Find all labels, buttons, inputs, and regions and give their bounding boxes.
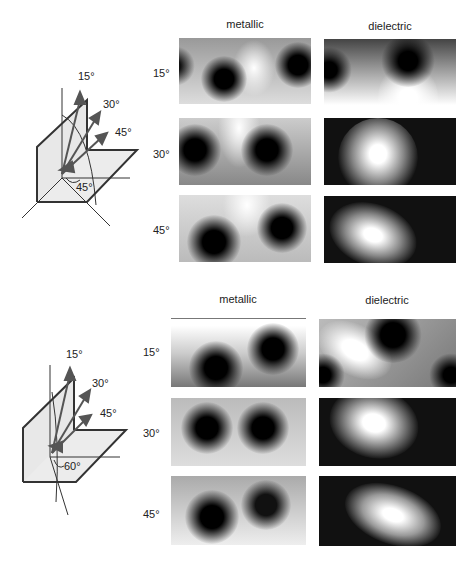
- geometry-diagram-bottom: 15° 30° 45° 60°: [0, 320, 150, 530]
- column-header-dielectric: dielectric: [324, 20, 456, 32]
- arrow-label-45: 45°: [115, 126, 132, 138]
- row-label-30: 30°: [143, 427, 160, 439]
- arrow-label-45: 45°: [100, 407, 117, 419]
- field-map-top-metallic-15: [179, 38, 311, 104]
- row-label-30: 30°: [153, 148, 170, 160]
- field-map-top-metallic-45: [179, 195, 311, 262]
- field-map-bottom-metallic-45: [171, 476, 306, 545]
- column-header-metallic: metallic: [179, 18, 311, 30]
- column-header-metallic: metallic: [172, 293, 304, 305]
- field-map-top-dielectric-15: [324, 39, 456, 105]
- column-header-dielectric: dielectric: [321, 294, 453, 306]
- row-label-15: 15°: [153, 67, 170, 79]
- row-label-15: 15°: [143, 346, 160, 358]
- field-map-top-dielectric-45: [324, 196, 456, 263]
- field-map-top-dielectric-30: [324, 118, 456, 185]
- base-angle-label: 60°: [64, 460, 81, 472]
- field-map-bottom-dielectric-30: [319, 398, 456, 466]
- field-map-bottom-metallic-30: [171, 398, 306, 466]
- field-map-bottom-metallic-15: [171, 318, 306, 387]
- arrow-label-30: 30°: [103, 98, 120, 110]
- arrow-label-15: 15°: [78, 70, 95, 82]
- field-map-bottom-dielectric-45: [319, 476, 456, 546]
- row-label-45: 45°: [153, 224, 170, 236]
- row-label-45: 45°: [143, 508, 160, 520]
- geometry-diagram-top: 15° 30° 45° 45°: [0, 50, 150, 260]
- arrow-label-15: 15°: [66, 348, 83, 360]
- base-angle-label: 45°: [76, 181, 93, 193]
- field-map-bottom-dielectric-15: [319, 319, 456, 387]
- arrow-label-30: 30°: [92, 377, 109, 389]
- field-map-top-metallic-30: [179, 118, 311, 185]
